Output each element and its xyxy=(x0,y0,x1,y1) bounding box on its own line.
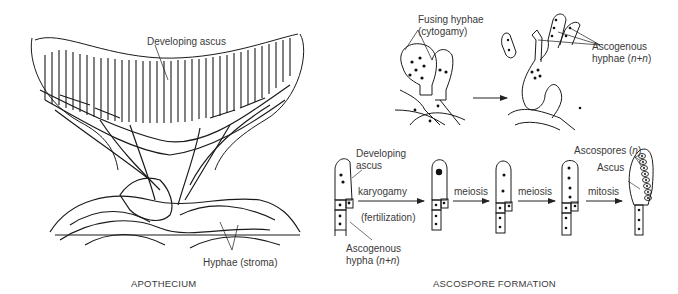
label-ascogenous-hyphae-line1: Ascogenous xyxy=(592,41,651,53)
formula: n+n xyxy=(379,255,396,266)
text: ) xyxy=(396,255,399,266)
fusing-hyphae-drawing xyxy=(395,30,465,125)
label-fusing-hyphae-line2: (cytogamy) xyxy=(418,26,484,38)
text: hyphae ( xyxy=(592,53,631,64)
caption-apothecium: APOTHECIUM xyxy=(131,278,196,289)
text: hypha ( xyxy=(346,255,379,266)
label-ascogenous-hypha: Ascogenous hypha (n+n) xyxy=(346,243,401,267)
label-ascus: Ascus xyxy=(597,162,624,174)
caption-ascospore-formation: ASCOSPORE FORMATION xyxy=(433,278,556,289)
step-meiosis-1-label: meiosis xyxy=(454,186,488,198)
text: ) xyxy=(648,53,651,64)
step-mitosis-label: mitosis xyxy=(588,186,619,198)
label-ascogenous-hypha-line2: hypha (n+n) xyxy=(346,255,401,267)
text: Ascospores ( xyxy=(574,145,632,156)
ascogenous-hyphae-drawing xyxy=(502,14,600,130)
label-developing-ascus: Developing ascus xyxy=(147,36,226,48)
label-developing-ascus-stage: Developing ascus xyxy=(356,148,406,172)
step-meiosis-2-label: meiosis xyxy=(518,186,552,198)
formula: n+n xyxy=(631,53,648,64)
label-hyphae-stroma: Hyphae (stroma) xyxy=(203,257,277,269)
step-karyogamy-label: karyogamy xyxy=(358,186,407,198)
step-karyogamy-sublabel: (fertilization) xyxy=(361,212,415,224)
label-ascogenous-hyphae-line2: hyphae (n+n) xyxy=(592,53,651,65)
label-fusing-hyphae-line1: Fusing hyphae xyxy=(418,14,484,26)
label-developing-line2: ascus xyxy=(356,160,406,172)
label-ascospores: Ascospores (n) xyxy=(574,145,641,157)
label-ascogenous-hyphae: Ascogenous hyphae (n+n) xyxy=(592,41,651,65)
text: ) xyxy=(638,145,641,156)
label-ascogenous-hypha-line1: Ascogenous xyxy=(346,243,401,255)
label-fusing-hyphae: Fusing hyphae (cytogamy) xyxy=(418,14,484,38)
label-developing-line1: Developing xyxy=(356,148,406,160)
apothecium-drawing xyxy=(31,34,303,250)
